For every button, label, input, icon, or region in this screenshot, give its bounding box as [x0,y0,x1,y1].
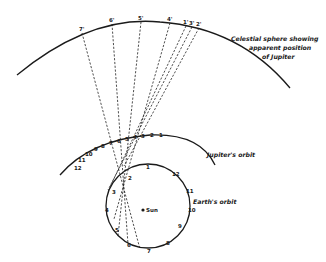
svg-text:5': 5' [138,15,144,21]
svg-text:8: 8 [166,240,170,246]
svg-text:9: 9 [94,146,98,152]
svg-text:7': 7' [79,26,85,32]
svg-text:9: 9 [178,223,182,229]
celestial-sphere-label-2: apparent position [249,44,312,52]
svg-text:10: 10 [85,151,93,157]
celestial-sphere-label-1: Celestial sphere showing [231,35,319,43]
svg-text:4: 4 [133,134,137,140]
jupiter-orbit-label: Jupiter's orbit [205,151,256,159]
svg-text:4': 4' [167,16,173,22]
svg-text:11: 11 [186,188,194,194]
svg-text:1: 1 [146,164,150,170]
retrograde-diagram: Sun 7' 6' 5' 4' 1' 3' 2' 1 2 3 4 5 6 7 8… [0,0,326,262]
svg-text:2: 2 [128,175,132,181]
svg-text:1: 1 [159,132,163,138]
celestial-sphere-label-3: of Jupiter [262,53,296,61]
svg-text:8: 8 [101,143,105,149]
celestial-sphere-arc [17,21,290,88]
sun-label: Sun [146,207,158,213]
svg-text:4: 4 [105,207,109,213]
svg-text:3': 3' [189,20,195,26]
svg-text:3: 3 [112,189,116,195]
svg-text:2': 2' [196,21,202,27]
svg-text:12: 12 [74,165,82,171]
svg-text:12: 12 [172,171,180,177]
svg-text:11: 11 [78,157,86,163]
sun-dot [141,208,144,211]
jupiter-orbit-arc [60,135,215,175]
svg-text:1': 1' [183,19,189,25]
svg-text:2: 2 [150,132,154,138]
svg-text:3: 3 [141,133,145,139]
svg-text:10: 10 [188,207,196,213]
svg-text:6: 6 [117,138,121,144]
svg-text:7: 7 [109,140,113,146]
svg-text:6: 6 [127,242,131,248]
svg-text:5: 5 [115,227,119,233]
svg-text:5: 5 [125,136,129,142]
svg-text:7: 7 [147,248,151,254]
svg-text:6': 6' [109,17,115,23]
earth-orbit-label: Earth's orbit [193,198,237,205]
